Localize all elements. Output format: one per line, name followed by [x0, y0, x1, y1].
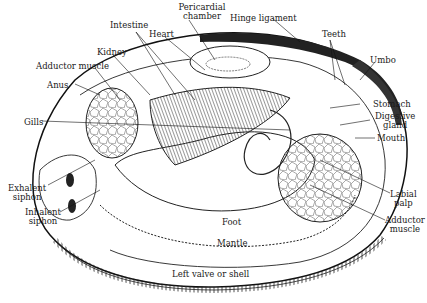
label-line: siphon [8, 193, 46, 202]
label-inhalent-siphon: Inhalent siphon [25, 208, 61, 226]
label-line: gland [375, 121, 415, 130]
posterior-adductor-muscle [278, 134, 362, 222]
label-line: muscle [385, 225, 425, 234]
label-line: siphon [25, 217, 61, 226]
figure-caption [130, 290, 310, 300]
clam-illustration [0, 0, 427, 303]
label-stomach: Stomach [373, 100, 411, 109]
label-gills: Gills [24, 118, 43, 127]
label-digestive-gland: Digestive gland [375, 112, 415, 130]
label-foot: Foot [222, 218, 241, 227]
label-mouth: Mouth [377, 134, 405, 143]
label-adductor-muscle-posterior: Adductor muscle [385, 216, 425, 234]
heart [206, 57, 250, 71]
label-line: chamber [172, 12, 232, 21]
label-mantle: Mantle [217, 239, 247, 248]
label-umbo: Umbo [370, 56, 396, 65]
label-hinge-ligament: Hinge ligament [230, 14, 297, 23]
label-left-valve: Left valve or shell [172, 270, 249, 279]
label-line: palp [390, 199, 417, 208]
label-teeth: Teeth [322, 30, 346, 39]
inhalent-siphon-opening [68, 199, 76, 213]
label-exhalent-siphon: Exhalent siphon [8, 184, 46, 202]
label-labial-palp: Labial palp [390, 190, 417, 208]
label-anus: Anus [47, 81, 68, 90]
clam-anatomy-diagram: Pericardial chamber Hinge ligament Intes… [0, 0, 427, 303]
label-heart: Heart [149, 30, 174, 39]
label-pericardial-chamber: Pericardial chamber [172, 3, 232, 21]
label-kidney: Kidney [97, 48, 127, 57]
label-adductor-muscle-anterior: Adductor muscle [36, 62, 109, 71]
label-intestine: Intestine [110, 21, 148, 30]
